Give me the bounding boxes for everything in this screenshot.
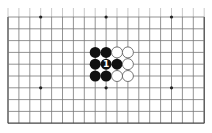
black-stone: [112, 59, 123, 70]
black-stone: 1: [101, 59, 112, 70]
black-stone: [90, 47, 101, 58]
white-stone: [122, 47, 133, 58]
star-point-icon: [105, 15, 108, 18]
star-point-icon: [170, 86, 173, 89]
black-stone: [90, 71, 101, 82]
white-stone: [122, 59, 133, 70]
white-stone: [122, 71, 133, 82]
move-number-label: 1: [103, 59, 109, 69]
black-stone: [101, 47, 112, 58]
white-stone: [112, 47, 123, 58]
star-point-icon: [170, 15, 173, 18]
black-stone: [90, 59, 101, 70]
stones-layer: 1: [90, 47, 134, 82]
white-stone: [112, 71, 123, 82]
go-board: 1: [0, 0, 212, 133]
black-stone: [101, 71, 112, 82]
star-point-icon: [105, 86, 108, 89]
star-point-icon: [39, 15, 42, 18]
star-point-icon: [39, 86, 42, 89]
